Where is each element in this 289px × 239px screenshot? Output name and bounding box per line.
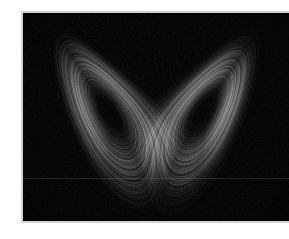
lorenz-attractor-plot [23, 13, 289, 221]
figure-root [0, 0, 289, 239]
plot-frame [21, 11, 289, 223]
